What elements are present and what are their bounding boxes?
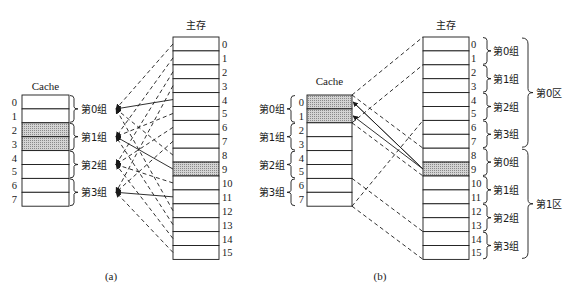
memory-block [423, 37, 469, 51]
cache-group-label: 第0组 [81, 103, 107, 115]
memory-group-brace-icon [483, 149, 491, 176]
dashed-mapping-line [352, 120, 423, 206]
memory-row-number: 5 [471, 108, 476, 119]
cache-group-label: 第3组 [81, 186, 107, 198]
memory-block [423, 232, 469, 246]
memory-row-number: 12 [471, 206, 482, 217]
dashed-mapping-line [352, 206, 423, 259]
memory-block [173, 79, 219, 93]
mapping-arrow-dashed [116, 137, 173, 225]
mapping-arrow-dashed [116, 192, 173, 252]
memory-block [423, 218, 469, 232]
memory-row-number: 6 [222, 122, 227, 133]
cache-group-brace-icon [287, 123, 295, 150]
memory-row-number: 4 [222, 95, 228, 106]
memory-title: 主存 [186, 19, 206, 31]
cache-row-number: 5 [12, 166, 17, 177]
cache-block [307, 109, 352, 123]
cache-row-number: 1 [12, 111, 17, 122]
cache-group-brace-icon [287, 179, 295, 206]
memory-group-brace-icon [483, 232, 491, 259]
memory-zone-label: 第1区 [536, 198, 562, 210]
diagram-a: Cache主存012345670123456789101112131415第0组… [12, 19, 234, 283]
cache-block-stack [22, 95, 69, 206]
cache-group-label: 第1组 [259, 131, 285, 143]
memory-block [423, 176, 469, 190]
cache-block [307, 95, 352, 109]
memory-block [423, 51, 469, 65]
memory-group-brace-icon [483, 204, 491, 231]
memory-group-brace-icon [483, 177, 491, 204]
cache-title: Cache [32, 80, 60, 92]
cache-group-brace-icon [287, 96, 295, 123]
dashed-mapping-line [352, 37, 423, 95]
memory-group-label: 第2组 [493, 101, 519, 113]
memory-block-stack [173, 37, 219, 259]
cache-group-label: 第2组 [259, 159, 285, 171]
memory-row-number: 1 [222, 53, 227, 64]
memory-row-number: 7 [222, 136, 227, 147]
memory-row-number: 2 [222, 67, 227, 78]
cache-block [307, 165, 352, 179]
memory-block [173, 218, 219, 232]
memory-row-number: 0 [471, 39, 476, 50]
cache-block [22, 137, 69, 151]
memory-row-number: 3 [471, 81, 476, 92]
memory-block [423, 134, 469, 148]
memory-row-number: 13 [222, 220, 233, 231]
memory-row-number: 4 [471, 95, 477, 106]
memory-block [173, 232, 219, 246]
memory-group-label: 第0组 [493, 156, 519, 168]
memory-block [173, 204, 219, 218]
cache-block [22, 109, 69, 123]
mapping-arrow-dashed [116, 141, 173, 192]
cache-title: Cache [316, 75, 344, 87]
cache-block [22, 95, 69, 109]
cache-group-brace-icon [287, 151, 295, 178]
mapping-arrow-solid [116, 100, 173, 109]
memory-group-label: 第1组 [493, 184, 519, 196]
memory-group-label: 第1组 [493, 73, 519, 85]
cache-block [307, 123, 352, 137]
memory-group-label: 第3组 [493, 128, 519, 140]
cache-group-brace-icon [70, 179, 78, 206]
cache-row-number: 1 [299, 111, 304, 122]
memory-block [423, 246, 469, 260]
memory-group-brace-icon [483, 65, 491, 92]
cache-row-number: 0 [12, 97, 17, 108]
memory-row-number: 12 [222, 206, 233, 217]
dashed-mapping-line [352, 123, 423, 176]
mapping-arrow-dashed [116, 44, 173, 109]
memory-block [173, 190, 219, 204]
memory-row-number: 14 [222, 234, 233, 245]
cache-group-label: 第2组 [81, 159, 107, 171]
mapping-arrow-dashed [116, 109, 173, 155]
memory-row-number: 10 [222, 178, 233, 189]
memory-block [173, 51, 219, 65]
memory-row-number: 13 [471, 220, 482, 231]
memory-row-number: 15 [222, 247, 233, 258]
memory-group-label: 第0组 [493, 45, 519, 57]
memory-block [173, 120, 219, 134]
memory-row-number: 5 [222, 108, 227, 119]
memory-block [173, 148, 219, 162]
cache-block [22, 123, 69, 137]
dashed-mapping-line [352, 65, 423, 123]
cache-group-label: 第3组 [259, 186, 285, 198]
memory-row-number: 10 [471, 178, 482, 189]
dashed-mapping-line [352, 178, 423, 231]
cache-row-number: 3 [12, 139, 17, 150]
memory-row-number: 11 [471, 192, 481, 203]
memory-row-number: 7 [471, 136, 476, 147]
caption-a: (a) [105, 270, 118, 283]
memory-group-brace-icon [483, 121, 491, 148]
memory-block [173, 162, 219, 176]
cache-row-number: 2 [299, 125, 304, 136]
dashed-mapping-line [352, 95, 423, 148]
memory-group-label: 第3组 [493, 240, 519, 252]
memory-block [423, 79, 469, 93]
cache-row-number: 6 [299, 180, 304, 191]
diagram-b: Cache主存012345670123456789101112131415第0组… [259, 19, 563, 283]
caption-b: (b) [374, 270, 387, 283]
memory-block [423, 93, 469, 107]
